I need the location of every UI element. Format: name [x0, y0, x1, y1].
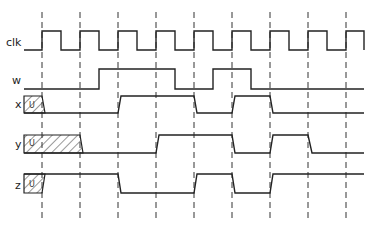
unknown-value-z: U: [29, 180, 35, 189]
timing-diagram: clk w x y z U U U: [0, 0, 373, 227]
signal-label-w: w: [12, 74, 21, 87]
waveform-clk: [24, 31, 364, 50]
unknown-value-y: U: [29, 139, 35, 148]
signal-label-clk: clk: [6, 36, 22, 49]
signal-label-x: x: [15, 98, 22, 111]
unknown-value-x: U: [29, 101, 35, 110]
signal-label-z: z: [15, 179, 21, 192]
signal-label-y: y: [15, 138, 22, 151]
